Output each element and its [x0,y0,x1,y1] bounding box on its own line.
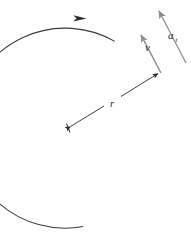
radius-label: r [110,97,115,109]
radius-line-lower [71,106,105,127]
radius-line-upper [121,74,158,97]
circular-path-arc [0,28,115,228]
center-tick-mark [67,124,71,133]
velocity-vector [141,35,161,73]
arc-arrow-glyph [73,15,87,21]
arc-direction-arrowhead-icon [73,15,87,21]
arc-stroke [0,28,115,228]
velocity-label: v [145,41,150,53]
acceleration-label: a [168,29,174,41]
diagram-canvas: r v a t [0,0,191,248]
physics-diagram-figure: r v a t [0,0,191,248]
acceleration-label-group: a t [168,29,179,44]
velocity-arrow-shaft [141,35,161,73]
acceleration-label-subscript: t [176,36,179,44]
